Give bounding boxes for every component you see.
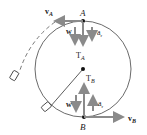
dashed-trajectory xyxy=(20,22,55,70)
vertical-circle-diagram: A vA w TA ar B vB w TB ar xyxy=(0,0,147,135)
point-a-label: A xyxy=(79,8,86,18)
accel-a-label: ar xyxy=(97,28,103,38)
tension-a-label: TA xyxy=(76,51,85,61)
thrown-object-icon xyxy=(9,70,19,81)
weight-b-label: w xyxy=(66,100,72,109)
velocity-b-label: vB xyxy=(128,114,136,124)
point-b-label: B xyxy=(80,122,86,132)
whirled-object-icon xyxy=(41,101,52,111)
center-point xyxy=(81,67,85,71)
weight-a-label: w xyxy=(66,27,72,36)
velocity-a-label: vA xyxy=(45,7,53,17)
tension-b-label: TB xyxy=(86,74,95,84)
accel-b-label: ar xyxy=(98,99,104,109)
